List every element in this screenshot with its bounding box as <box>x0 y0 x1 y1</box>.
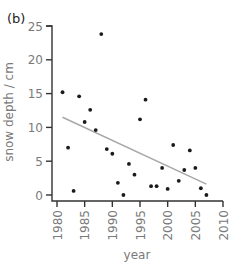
data-point <box>122 193 126 197</box>
data-point <box>160 166 164 170</box>
x-tick-label: 1995 <box>134 210 148 241</box>
y-tick-label: 0 <box>35 189 43 203</box>
data-point <box>83 120 87 124</box>
data-point <box>166 187 170 191</box>
data-point <box>127 162 131 166</box>
data-point <box>77 94 81 98</box>
x-tick-label: 1990 <box>106 210 120 241</box>
data-point <box>116 181 120 185</box>
data-point <box>155 184 159 188</box>
scatter-chart: (b) 0510152025 1980198519901995200020052… <box>0 0 229 265</box>
panel-label: (b) <box>7 11 25 26</box>
data-points <box>61 32 209 197</box>
y-tick-label: 10 <box>28 121 43 135</box>
y-axis-ticks: 0510152025 <box>28 20 52 203</box>
data-point <box>144 98 148 102</box>
x-tick-label: 1980 <box>51 210 65 241</box>
data-point <box>105 147 109 151</box>
data-point <box>72 189 76 193</box>
data-point <box>199 186 203 190</box>
data-point <box>182 168 186 172</box>
x-tick-label: 2010 <box>217 210 230 241</box>
y-axis-label: snow depth / cm <box>2 62 16 162</box>
data-point <box>188 148 192 152</box>
data-point <box>99 32 103 36</box>
data-point <box>149 184 153 188</box>
y-tick-label: 25 <box>28 20 43 34</box>
data-point <box>138 117 142 121</box>
x-axis-ticks: 1980198519901995200020052010 <box>51 201 230 241</box>
data-point <box>110 152 114 156</box>
data-point <box>66 146 70 150</box>
data-point <box>88 108 92 112</box>
data-point <box>193 166 197 170</box>
y-tick-label: 5 <box>35 155 43 169</box>
data-point <box>177 179 181 183</box>
data-point <box>205 193 209 197</box>
y-tick-label: 15 <box>28 87 43 101</box>
data-point <box>94 128 98 132</box>
x-tick-label: 1985 <box>78 210 92 241</box>
x-tick-label: 2005 <box>189 210 203 241</box>
data-point <box>171 143 175 147</box>
data-point <box>133 173 137 177</box>
x-axis-label: year <box>124 248 151 262</box>
data-point <box>61 90 65 94</box>
y-tick-label: 20 <box>28 53 43 67</box>
x-tick-label: 2000 <box>161 210 175 241</box>
